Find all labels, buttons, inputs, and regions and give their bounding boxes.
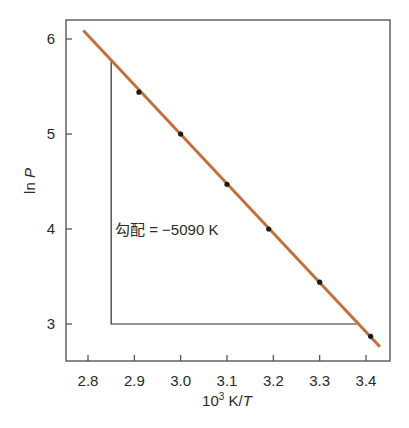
axis-ticks: 2.82.93.03.13.23.33.43456	[47, 30, 377, 389]
x-tick-label: 3.2	[263, 372, 284, 389]
data-point	[178, 131, 183, 136]
data-point	[224, 182, 229, 187]
chart: 2.82.93.03.13.23.33.43456 勾配 = −5090 K l…	[0, 0, 409, 428]
x-tick-label: 2.8	[78, 372, 99, 389]
data-point	[317, 280, 322, 285]
plot-frame	[66, 20, 390, 361]
data-point	[368, 334, 373, 339]
data-point	[136, 90, 141, 95]
y-tick-label: 3	[47, 315, 55, 332]
y-tick-label: 5	[47, 125, 55, 142]
y-axis-label: ln P	[21, 168, 38, 194]
x-axis-label: 103 K/T	[202, 391, 254, 409]
x-tick-label: 3.0	[170, 372, 191, 389]
fit-line-path	[83, 30, 380, 346]
slope-annotation: 勾配 = −5090 K	[115, 221, 218, 238]
x-tick-label: 3.3	[309, 372, 330, 389]
x-tick-label: 2.9	[124, 372, 145, 389]
fit-line	[83, 30, 380, 346]
data-point	[266, 226, 271, 231]
y-tick-label: 4	[47, 220, 55, 237]
x-tick-label: 3.1	[217, 372, 238, 389]
y-tick-label: 6	[47, 30, 55, 47]
x-tick-label: 3.4	[356, 372, 377, 389]
plot-border	[66, 20, 390, 361]
